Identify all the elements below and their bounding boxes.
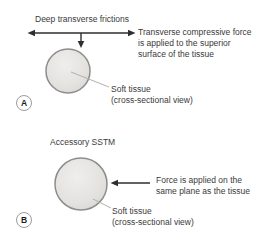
down-arrow-icon	[78, 33, 85, 48]
left-arrow-icon	[111, 180, 151, 187]
soft-tissue-circle-a	[46, 49, 90, 93]
panel-b-tissue-label: Soft tissue (cross-sectional view)	[112, 206, 194, 228]
panel-a-tissue-label: Soft tissue (cross-sectional view)	[111, 84, 193, 106]
panel-a-badge: A	[17, 99, 32, 108]
panel-b-badge: B	[17, 216, 32, 225]
panel-b-annotation: Force is applied on the same plane as th…	[156, 175, 250, 197]
medical-diagram: Deep transverse frictions Transverse com…	[0, 0, 268, 239]
panel-b-title: Accessory SSTM	[50, 137, 115, 148]
panel-a-title: Deep transverse frictions	[35, 14, 129, 25]
panel-a-annotation: Transverse compressive force is applied …	[138, 27, 252, 60]
